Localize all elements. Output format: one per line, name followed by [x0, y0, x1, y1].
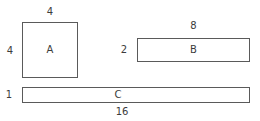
rectangle-b-letter: B — [137, 38, 250, 62]
rectangle-a-letter: A — [22, 22, 78, 78]
rectangle-a-height-label: 4 — [0, 46, 20, 56]
rectangle-c-height-label: 1 — [0, 90, 18, 100]
rectangle-a-width-label: 4 — [22, 7, 78, 17]
rectangle-c-letter: C — [96, 87, 140, 103]
diagram-canvas: A 4 4 B 8 2 C 1 16 — [0, 0, 260, 121]
rectangle-c-width-label: 16 — [100, 107, 144, 117]
rectangle-b-width-label: 8 — [137, 21, 250, 31]
rectangle-b-height-label: 2 — [115, 45, 133, 55]
